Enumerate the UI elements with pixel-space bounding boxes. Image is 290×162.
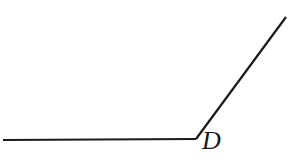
horizontal-ray bbox=[3, 139, 196, 140]
vertex-label-d: D bbox=[201, 126, 221, 155]
inclined-ray bbox=[196, 17, 286, 139]
angle-diagram: D bbox=[0, 0, 290, 162]
